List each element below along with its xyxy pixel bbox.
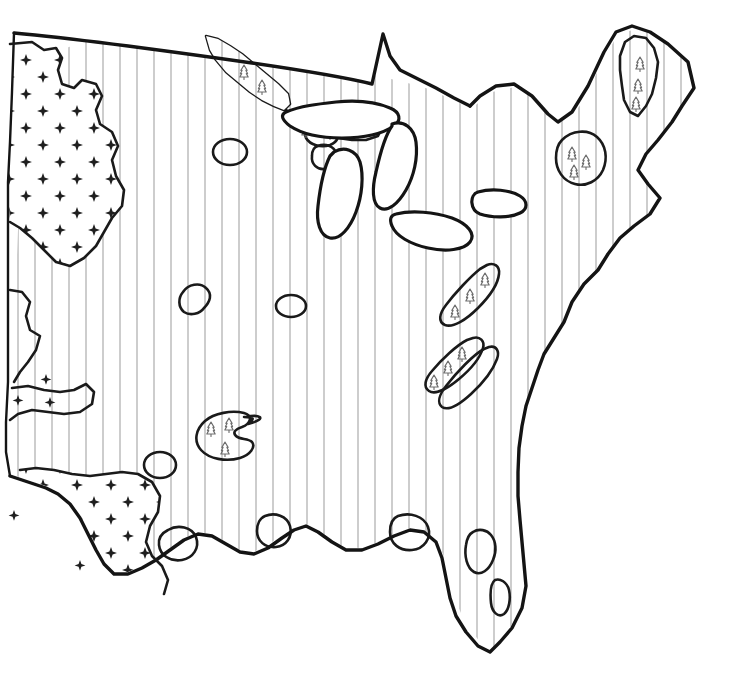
diamond-mark [9,510,20,521]
lake-ontario [472,190,526,217]
eastern-us-map-svg [0,0,742,676]
map-canvas [0,0,742,676]
lake-superior [283,101,399,138]
diamond-mark [75,560,86,571]
